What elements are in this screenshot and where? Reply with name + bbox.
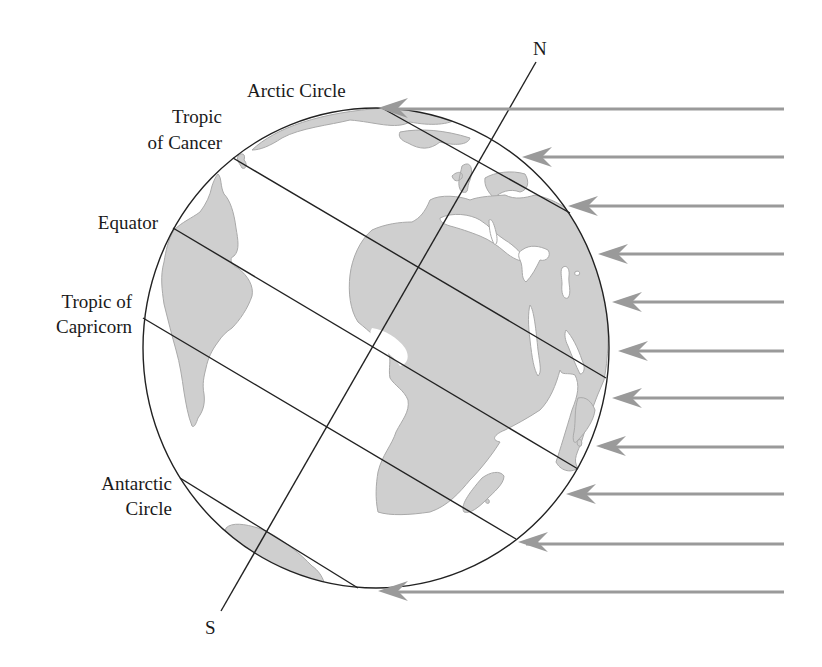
caspian-sea [561,266,570,298]
south-america [162,174,253,427]
antarctica [225,524,324,582]
tropic-of-capricorn-label-line2: Capricorn [56,316,132,338]
tropic-of-cancer-label-line2: of Cancer [148,132,222,154]
south-label: S [205,617,216,639]
antarctic-circle-label-line2: Circle [126,498,172,520]
north-label: N [533,38,547,60]
southeast-asia-tip [573,398,595,443]
tropic-of-capricorn-label-line1: Tropic of [61,291,132,313]
equator-label: Equator [98,212,158,234]
antarctic-circle-label-line1: Antarctic [101,473,172,495]
antarctic-circle-line [180,478,358,588]
arctic-circle-label: Arctic Circle [247,80,346,102]
arctic-island [399,130,470,148]
aral-sea [575,271,580,275]
earth-sunlight-diagram: N S Arctic Circle Tropic of Cancer Equat… [0,0,822,667]
tropic-of-cancer-label-line1: Tropic [172,106,222,128]
europe-asia-africa [349,195,608,515]
scandinavia [485,172,528,198]
small-island-east [577,439,582,446]
small-island-indian-ocean [486,499,490,503]
